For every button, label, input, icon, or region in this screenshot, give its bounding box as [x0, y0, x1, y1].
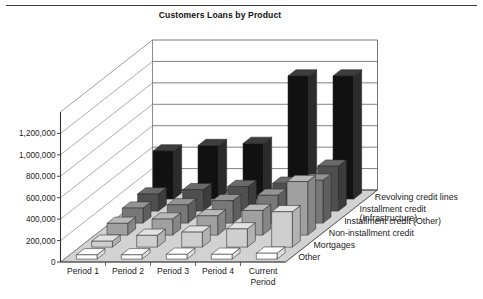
bar-front-face	[227, 229, 248, 247]
bar-side-face	[323, 174, 331, 223]
series-label: Other	[298, 252, 320, 262]
bar-front-face	[211, 254, 232, 259]
bar-column[interactable]	[107, 217, 136, 235]
series-label: Mortgages	[314, 240, 356, 250]
y-axis-tick-label: 0	[51, 258, 56, 267]
y-axis-tick-label: 400,000	[26, 215, 56, 224]
y-axis-tick-label: 1,000,000	[19, 151, 56, 160]
bar-column[interactable]	[227, 223, 256, 247]
x-axis-tick-label: Current	[249, 266, 278, 276]
series-label: Non-installment credit	[329, 228, 415, 238]
x-axis-tick-label: Period 1	[67, 266, 99, 276]
x-axis-tick-label: Period 4	[202, 266, 234, 276]
x-axis-tick-label: Period 3	[157, 266, 189, 276]
bar-column[interactable]	[182, 226, 211, 247]
chart-page: Customers Loans by Product 0200,000400,0…	[0, 0, 483, 299]
bar-front-face	[137, 235, 158, 247]
bar-side-face	[174, 145, 182, 199]
x-axis-tick-label: Period	[251, 277, 276, 287]
bar-side-face	[338, 160, 346, 211]
series-label: Revolving credit lines	[375, 192, 459, 202]
bar-side-face	[219, 139, 227, 199]
bar-front-face	[272, 212, 293, 247]
bar-side-face	[292, 206, 300, 248]
chart-plot-area: 0200,000400,000600,000800,0001,000,0001,…	[0, 0, 483, 299]
bar-column[interactable]	[137, 229, 166, 247]
bar-front-face	[76, 255, 97, 259]
bar-front-face	[166, 254, 187, 259]
bar-front-face	[256, 253, 277, 259]
y-axis-tick-label: 800,000	[26, 172, 56, 181]
bar-front-face	[182, 232, 203, 247]
bar-front-face	[107, 223, 128, 235]
bar-front-face	[121, 255, 142, 259]
bar-front-face	[92, 241, 113, 247]
series-label: Installment credit (Other)	[344, 216, 441, 226]
y-axis-tick-label: 200,000	[26, 237, 56, 246]
bar-side-face	[354, 70, 362, 199]
y-axis-tick-label: 600,000	[26, 194, 56, 203]
bar-side-face	[308, 175, 316, 235]
y-axis-tick-label: 1,200,000	[19, 129, 56, 138]
x-axis-tick-label: Period 2	[112, 266, 144, 276]
bar-column[interactable]	[272, 206, 301, 248]
